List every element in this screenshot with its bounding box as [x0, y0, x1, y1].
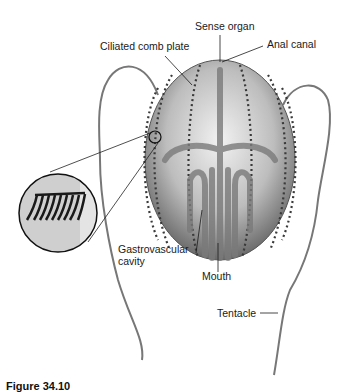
comb-plate-inset	[15, 170, 105, 260]
label-gastrovascular: Gastrovascular	[118, 243, 189, 255]
label-sense-organ: Sense organ	[195, 20, 255, 32]
label-cavity: cavity	[118, 255, 145, 267]
label-tentacle: Tentacle	[217, 307, 256, 319]
label-mouth: Mouth	[202, 270, 231, 282]
figure-caption: Figure 34.10	[6, 380, 70, 392]
label-ciliated-comb-plate: Ciliated comb plate	[100, 40, 189, 52]
label-anal-canal: Anal canal	[267, 38, 316, 50]
